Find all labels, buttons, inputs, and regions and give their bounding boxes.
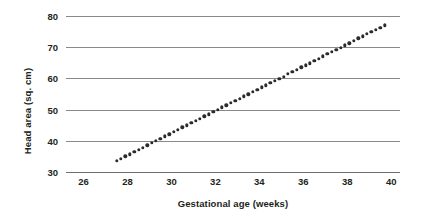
data-point — [264, 84, 267, 87]
data-point — [176, 128, 179, 131]
data-point — [308, 61, 311, 64]
data-point — [132, 150, 135, 153]
data-point — [286, 72, 289, 75]
data-point — [379, 26, 382, 29]
data-point — [273, 79, 276, 82]
x-axis-tick-labels: 2628303234363840 — [66, 176, 400, 190]
data-point — [163, 135, 166, 138]
data-point — [251, 90, 254, 93]
data-point — [207, 113, 210, 116]
data-point — [229, 101, 232, 104]
x-tick-label-38: 38 — [342, 176, 353, 187]
data-point — [137, 148, 140, 151]
data-point — [321, 55, 324, 58]
gridline-y-70 — [66, 47, 400, 48]
data-point — [352, 39, 355, 42]
gridline-y-80 — [66, 16, 400, 17]
gridline-y-60 — [66, 78, 400, 79]
data-point — [277, 77, 280, 80]
gridline-y-40 — [66, 141, 400, 142]
y-tick-label-80: 80 — [30, 11, 58, 22]
data-point — [172, 130, 175, 133]
x-tick-label-36: 36 — [298, 176, 309, 187]
data-point — [124, 155, 127, 158]
data-point — [317, 57, 320, 60]
data-point — [168, 133, 171, 136]
data-point — [119, 157, 122, 160]
data-point — [185, 123, 188, 126]
data-point — [115, 159, 118, 162]
data-point — [216, 108, 219, 111]
data-point — [247, 93, 250, 96]
data-point — [225, 104, 228, 107]
data-point — [238, 97, 241, 100]
data-point — [255, 88, 258, 91]
data-point — [374, 28, 377, 31]
data-point — [361, 35, 364, 38]
plot-area — [66, 16, 400, 172]
data-point — [181, 126, 184, 129]
x-axis-title: Gestational age (weeks) — [66, 198, 400, 209]
data-point — [295, 68, 298, 71]
x-tick-label-30: 30 — [166, 176, 177, 187]
data-point — [194, 119, 197, 122]
gridline-y-30 — [66, 172, 400, 173]
data-point — [154, 139, 157, 142]
data-point — [220, 106, 223, 109]
data-point — [365, 32, 368, 35]
data-point — [146, 143, 149, 146]
y-tick-label-70: 70 — [30, 42, 58, 53]
x-tick-label-34: 34 — [254, 176, 265, 187]
data-point — [335, 48, 338, 51]
data-point — [348, 41, 351, 44]
data-point — [190, 121, 193, 124]
gridline-y-50 — [66, 110, 400, 111]
data-point — [198, 117, 201, 120]
data-point — [260, 86, 263, 89]
x-tick-label-40: 40 — [386, 176, 397, 187]
data-point — [339, 46, 342, 49]
data-point — [370, 30, 373, 33]
data-point — [330, 50, 333, 53]
head-area-vs-gestational-age-chart: Head area (sq. cm) 304050607080 26283032… — [0, 0, 421, 222]
data-point — [326, 52, 329, 55]
data-point — [242, 95, 245, 98]
data-point — [128, 153, 131, 156]
x-tick-label-26: 26 — [78, 176, 89, 187]
y-tick-label-40: 40 — [30, 135, 58, 146]
x-tick-label-32: 32 — [210, 176, 221, 187]
y-tick-label-60: 60 — [30, 73, 58, 84]
x-tick-label-28: 28 — [122, 176, 133, 187]
data-point — [203, 115, 206, 118]
data-point — [150, 141, 153, 144]
data-point — [357, 37, 360, 40]
data-point — [141, 146, 144, 149]
data-point — [291, 70, 294, 73]
data-point — [383, 24, 386, 27]
data-point — [159, 137, 162, 140]
data-point — [269, 81, 272, 84]
data-point — [233, 99, 236, 102]
data-point — [304, 64, 307, 67]
y-tick-label-30: 30 — [30, 167, 58, 178]
data-point — [313, 59, 316, 62]
data-point — [299, 66, 302, 69]
data-point — [212, 110, 215, 113]
y-tick-label-50: 50 — [30, 104, 58, 115]
